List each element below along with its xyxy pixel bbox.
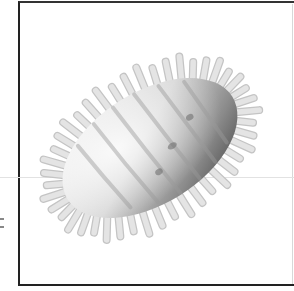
- organism-illustration: [0, 0, 294, 291]
